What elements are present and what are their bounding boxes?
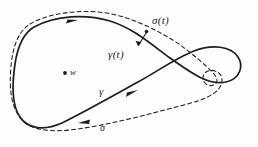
gamma-direction-arrows — [66, 20, 138, 125]
arrowhead-gamma-middle — [126, 90, 138, 97]
label-sigma-of-t: σ(t) — [152, 15, 169, 26]
label-sigma: σ — [100, 123, 105, 133]
diagram-canvas — [0, 0, 258, 147]
arrowhead-gamma-bottom — [78, 120, 90, 125]
label-gamma-of-t: γ(t) — [108, 49, 124, 60]
label-gamma: γ — [99, 86, 103, 97]
point-sigma-t-dot — [145, 30, 149, 34]
point-w-dot — [63, 71, 67, 75]
arrowhead-gamma-top — [66, 20, 78, 24]
homotopy-figure: σ(t) γ(t) w γ σ — [0, 0, 258, 147]
label-point-w: w — [70, 68, 76, 77]
